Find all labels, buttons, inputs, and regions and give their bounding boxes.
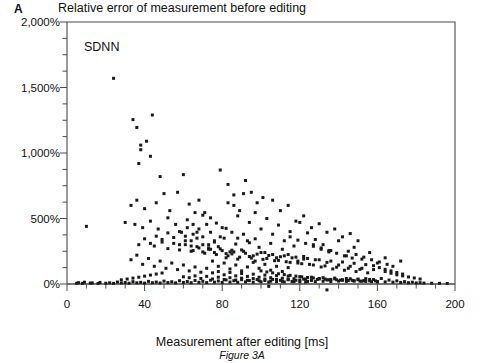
data-point — [335, 252, 338, 255]
data-point — [137, 243, 140, 246]
data-point — [155, 281, 158, 284]
data-point — [308, 263, 311, 266]
data-point — [341, 260, 344, 263]
data-point — [254, 211, 257, 214]
data-point — [256, 278, 259, 281]
data-point — [395, 271, 398, 274]
data-point — [252, 273, 255, 276]
data-point — [329, 278, 332, 281]
data-point — [155, 235, 158, 238]
data-point — [401, 273, 404, 276]
data-point — [240, 272, 243, 275]
data-point — [242, 192, 245, 195]
data-point — [260, 251, 263, 254]
data-point — [221, 226, 224, 229]
data-point — [273, 259, 276, 262]
data-point — [219, 169, 222, 172]
data-point — [337, 239, 340, 242]
data-point — [384, 280, 387, 283]
x-axis-tick-label: 80 — [216, 298, 229, 310]
data-point — [168, 209, 171, 212]
data-point — [131, 280, 134, 283]
data-point — [358, 268, 361, 271]
data-point — [294, 279, 297, 282]
data-point — [234, 264, 237, 267]
data-point — [141, 263, 144, 266]
data-point — [166, 216, 169, 219]
data-point — [89, 282, 92, 285]
data-point — [201, 250, 204, 253]
data-point — [252, 277, 255, 280]
data-point — [201, 243, 204, 246]
y-axis-tick-label: 2,000% — [2, 16, 60, 28]
data-point — [205, 281, 208, 284]
data-point — [384, 268, 387, 271]
data-point — [263, 274, 266, 277]
data-point — [296, 262, 299, 265]
data-point — [353, 279, 356, 282]
data-point — [306, 231, 309, 234]
data-point — [219, 235, 222, 238]
data-point — [166, 281, 169, 284]
data-point — [120, 278, 123, 281]
data-point — [281, 270, 284, 273]
data-point — [318, 258, 321, 261]
data-point — [291, 256, 294, 259]
data-point — [291, 280, 294, 283]
data-point — [250, 191, 253, 194]
data-point — [161, 238, 164, 241]
data-point — [395, 279, 398, 282]
data-point — [364, 277, 367, 280]
data-point — [149, 220, 152, 223]
data-point — [182, 281, 185, 284]
data-point — [357, 239, 360, 242]
data-point — [188, 269, 191, 272]
data-point — [283, 273, 286, 276]
data-point — [302, 258, 305, 261]
data-point — [230, 249, 233, 252]
data-point — [287, 266, 290, 269]
data-point — [422, 282, 425, 285]
data-point — [362, 256, 365, 259]
data-point — [256, 253, 259, 256]
data-point — [298, 280, 301, 283]
scatter-plot-canvas — [0, 0, 484, 363]
data-point — [215, 222, 218, 225]
data-point — [263, 251, 266, 254]
data-point — [277, 259, 280, 262]
data-point — [304, 242, 307, 245]
data-point — [172, 236, 175, 239]
data-point — [124, 221, 127, 224]
data-point — [391, 281, 394, 284]
data-point — [267, 281, 270, 284]
data-point — [294, 256, 297, 259]
data-point — [159, 281, 162, 284]
data-point — [108, 281, 111, 284]
data-point — [197, 227, 200, 230]
data-point — [205, 275, 208, 278]
data-point — [228, 271, 231, 274]
data-point — [184, 235, 187, 238]
data-point — [372, 264, 375, 267]
data-point — [178, 243, 181, 246]
data-point — [149, 155, 152, 158]
data-point — [223, 262, 226, 265]
data-point — [236, 281, 239, 284]
data-point — [279, 255, 282, 258]
data-point — [192, 223, 195, 226]
data-point — [271, 233, 274, 236]
data-point — [347, 279, 350, 282]
data-point — [186, 218, 189, 221]
data-point — [287, 253, 290, 256]
data-point — [85, 225, 88, 228]
data-point — [135, 281, 138, 284]
data-point — [163, 280, 166, 283]
data-point — [228, 267, 231, 270]
data-point — [244, 179, 247, 182]
data-point — [242, 233, 245, 236]
data-point — [203, 211, 206, 214]
data-point — [370, 258, 373, 261]
data-point — [153, 265, 156, 268]
data-point — [139, 144, 142, 147]
data-point — [289, 235, 292, 238]
